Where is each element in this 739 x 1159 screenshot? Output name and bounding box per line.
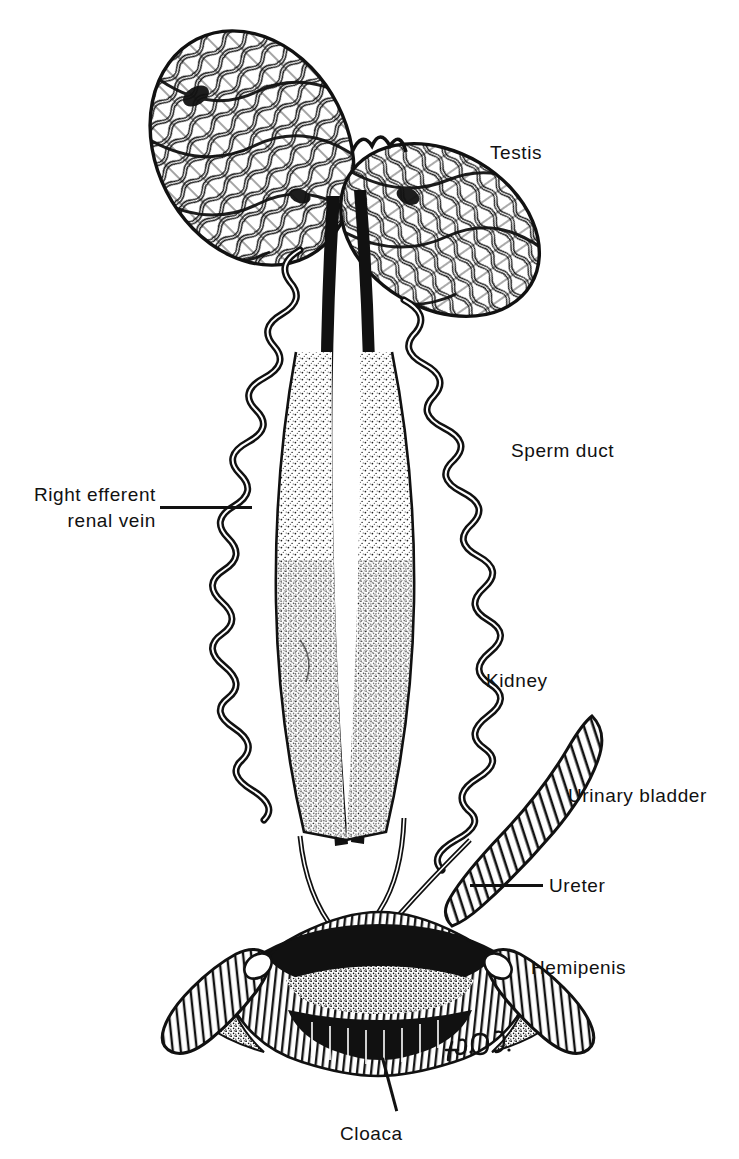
label-right-efferent-renal-vein: Right efferent renal vein [20,482,156,533]
anatomical-figure [0,0,739,1159]
anatomy-illustration [0,0,739,1159]
label-ureter: Ureter [549,873,605,899]
label-testis: Testis [490,140,542,166]
leader-line-ureter [470,884,543,887]
label-urinary-bladder: Urinary bladder [568,783,707,809]
label-hemipenis: Hemipenis [531,955,626,981]
label-kidney: Kidney [486,668,548,694]
leader-line-right-efferent-renal-vein [160,506,252,509]
label-sperm-duct: Sperm duct [511,438,614,464]
label-cloaca: Cloaca [340,1121,403,1147]
